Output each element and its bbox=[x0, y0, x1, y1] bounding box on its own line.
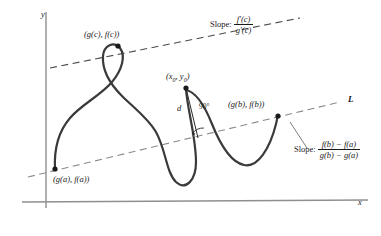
label-point-gc-fc: (g(c), f(c)) bbox=[84, 30, 119, 39]
label-point-gb-fb: (g(b), f(b)) bbox=[228, 100, 264, 109]
y-axis-label: y bbox=[41, 10, 45, 19]
tangent-slope-denominator: g′(c) bbox=[234, 25, 254, 34]
point-gb-fb bbox=[275, 113, 280, 118]
point-gc-fc bbox=[115, 43, 120, 48]
tangent-slope-numerator: f′(c) bbox=[234, 15, 254, 25]
x-axis bbox=[22, 200, 368, 202]
point-x0-y0 bbox=[183, 85, 188, 90]
x0y0-close: ) bbox=[187, 71, 190, 81]
label-point-x0-y0: (x0, y0) bbox=[166, 72, 189, 83]
secant-slope-fraction: f(b) − f(a) g(b) − g(a) bbox=[318, 140, 360, 160]
secant-slope-numerator: f(b) − f(a) bbox=[318, 140, 360, 150]
label-line-L: L bbox=[348, 95, 354, 104]
figure-canvas bbox=[0, 0, 381, 236]
tangent-line bbox=[50, 18, 300, 68]
secant-slope-denominator: g(b) − g(a) bbox=[318, 150, 360, 159]
x0y0-mid: , y bbox=[176, 71, 184, 81]
label-point-ga-fa: (g(a), f(a)) bbox=[53, 175, 89, 184]
point-ga-fa bbox=[52, 166, 57, 171]
secant-slope-word: Slope: bbox=[294, 145, 316, 154]
label-distance-d: d bbox=[177, 104, 181, 113]
x-axis-label: x bbox=[358, 198, 362, 207]
tangent-slope-word: Slope: bbox=[210, 20, 232, 29]
label-secant-slope: Slope: f(b) − f(a) g(b) − g(a) bbox=[294, 140, 360, 160]
tangent-slope-fraction: f′(c) g′(c) bbox=[234, 15, 254, 35]
label-tangent-slope: Slope: f′(c) g′(c) bbox=[210, 15, 253, 35]
figure-container: y x (g(c), f(c)) (g(b), f(b)) (g(a), f(a… bbox=[0, 0, 381, 236]
parametric-curve bbox=[55, 45, 278, 186]
label-right-angle: 90° bbox=[199, 103, 210, 111]
x0y0-open: (x bbox=[166, 71, 173, 81]
